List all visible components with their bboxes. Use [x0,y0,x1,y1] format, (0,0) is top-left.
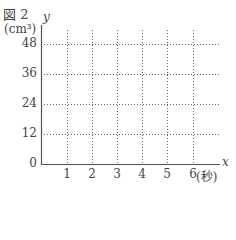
x-tick-3: 3 [110,167,124,181]
x-tick-2: 2 [85,167,99,181]
x-tick-5: 5 [160,167,174,181]
y-tick-48: 48 [7,36,37,50]
y-tick-0: 0 [7,156,37,170]
x-tick-4: 4 [135,167,149,181]
x-axis-unit: (秒) [196,167,217,184]
x-tick-1: 1 [60,167,74,181]
y-tick-24: 24 [7,96,37,110]
y-tick-36: 36 [7,66,37,80]
y-tick-12: 12 [7,126,37,140]
